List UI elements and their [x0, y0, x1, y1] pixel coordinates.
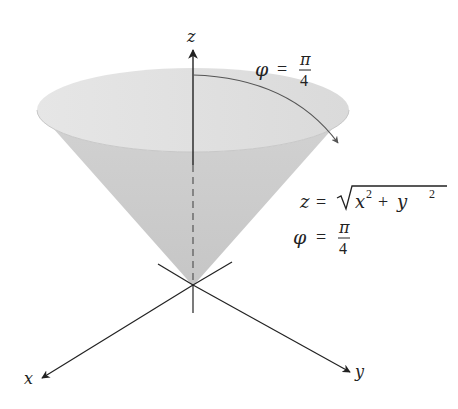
angle-label-num: π: [299, 50, 311, 69]
cone-angle-eq: =: [316, 227, 326, 247]
cone-equation-eq: =: [316, 192, 326, 212]
cone-equation-y: y: [396, 191, 408, 212]
cone-diagram: z x y φ = π 4 z = x 2 + y 2 φ = π 4: [0, 0, 458, 409]
cone-equation: z = x 2 + y 2: [299, 186, 447, 212]
cone-equation-y-exp: 2: [429, 187, 435, 201]
angle-label-phi: φ: [255, 58, 269, 80]
angle-label-den: 4: [300, 72, 308, 89]
cone-angle-label: φ = π 4: [293, 218, 350, 257]
x-axis: [42, 285, 193, 378]
cone-angle-num: π: [338, 218, 350, 237]
z-axis-label: z: [186, 27, 196, 46]
cone-equation-x: x: [355, 191, 365, 212]
y-axis: [193, 285, 350, 372]
x-axis-label: x: [24, 369, 33, 388]
cone-equation-x-exp: 2: [366, 187, 372, 201]
cone-angle-den: 4: [339, 240, 347, 257]
cone-equation-plus: +: [378, 192, 388, 212]
angle-label-eq: =: [277, 59, 287, 79]
cone-angle-phi: φ: [293, 226, 307, 248]
cone-equation-z: z: [299, 191, 310, 212]
y-axis-label: y: [354, 362, 365, 381]
